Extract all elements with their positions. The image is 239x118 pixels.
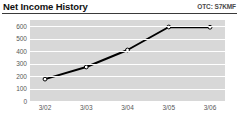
gridline bbox=[30, 26, 225, 27]
x-axis-tick-label: 3/04 bbox=[121, 104, 134, 111]
gridline bbox=[30, 76, 225, 77]
y-axis-tick-label: 100 bbox=[16, 85, 27, 92]
x-axis-tick-label: 3/02 bbox=[39, 104, 52, 111]
x-axis-tick-label: 3/05 bbox=[162, 104, 175, 111]
gridline bbox=[30, 39, 225, 40]
y-axis-tick-label: 0 bbox=[23, 98, 27, 105]
x-axis: 3/023/033/043/053/06 bbox=[30, 104, 225, 116]
ticker-symbol-label: OTC: S7KMF bbox=[197, 3, 236, 10]
page-title: Net Income History bbox=[3, 1, 88, 12]
data-point-marker bbox=[84, 65, 88, 69]
y-axis-tick-label: 500 bbox=[16, 35, 27, 42]
y-axis-tick-label: 400 bbox=[16, 48, 27, 55]
gridline bbox=[30, 51, 225, 52]
x-axis-tick-label: 3/03 bbox=[80, 104, 93, 111]
y-axis-tick-label: 200 bbox=[16, 73, 27, 80]
plot-area bbox=[30, 20, 225, 101]
series-line bbox=[45, 27, 210, 79]
gridline bbox=[30, 89, 225, 90]
chart-header: Net Income History OTC: S7KMF bbox=[0, 0, 239, 14]
y-axis: 0100200300400500600 bbox=[0, 14, 29, 106]
data-point-marker bbox=[43, 77, 47, 81]
x-axis-tick-label: 3/06 bbox=[204, 104, 217, 111]
y-axis-tick-label: 300 bbox=[16, 60, 27, 67]
y-axis-tick-label: 600 bbox=[16, 23, 27, 30]
header-divider bbox=[2, 13, 237, 14]
gridline bbox=[30, 101, 225, 102]
gridline bbox=[30, 64, 225, 65]
net-income-history-chart-widget: Net Income History OTC: S7KMF 0100200300… bbox=[0, 0, 239, 118]
